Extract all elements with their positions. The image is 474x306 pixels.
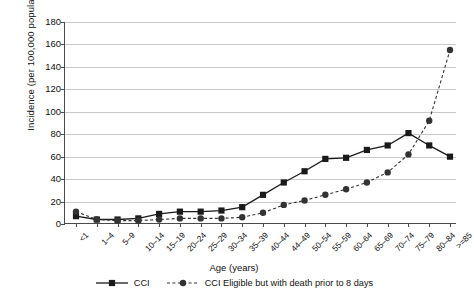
data-point-marker xyxy=(198,209,204,215)
y-tick-label: 60 xyxy=(21,152,61,162)
data-point-marker xyxy=(281,179,287,185)
x-tick-label: 1–4 xyxy=(99,230,116,247)
x-axis-label: Age (years) xyxy=(0,262,468,273)
data-point-marker xyxy=(177,209,183,215)
data-point-marker xyxy=(426,118,432,124)
legend-label: CCI Eligible but with death prior to 8 d… xyxy=(205,278,374,288)
y-tick-mark xyxy=(61,224,65,225)
data-point-marker xyxy=(260,192,266,198)
x-tick-label: 40–44 xyxy=(268,230,291,253)
x-tick-label: 25–29 xyxy=(205,230,228,253)
data-point-marker xyxy=(426,142,432,148)
data-point-marker xyxy=(322,192,328,198)
x-tick-label: <1 xyxy=(77,230,91,244)
data-point-marker xyxy=(239,204,245,210)
x-tick-label: 10–14 xyxy=(143,230,166,253)
data-point-marker xyxy=(364,147,370,153)
data-point-marker xyxy=(447,154,453,160)
legend-label: CCI xyxy=(134,278,150,288)
x-tick-label: 75–79 xyxy=(413,230,436,253)
data-point-marker xyxy=(405,151,411,157)
y-tick-label: 120 xyxy=(21,84,61,94)
data-point-marker xyxy=(343,155,349,161)
data-point-marker xyxy=(281,202,287,208)
data-point-marker xyxy=(322,156,328,162)
x-tick-label: 65–69 xyxy=(372,230,395,253)
data-point-marker xyxy=(73,208,79,214)
y-tick-label: 100 xyxy=(21,107,61,117)
x-tick-label: 50–54 xyxy=(309,230,332,253)
data-point-marker xyxy=(364,179,370,185)
data-point-marker xyxy=(385,142,391,148)
y-tick-label: 160 xyxy=(21,39,61,49)
data-point-marker xyxy=(94,216,100,222)
x-tick-label: 44–49 xyxy=(289,230,312,253)
data-point-marker xyxy=(301,197,307,203)
x-tick-label: 55–59 xyxy=(330,230,353,253)
x-tick-label: 60–64 xyxy=(351,230,374,253)
legend-item-1: CCI xyxy=(95,278,150,288)
x-tick-label: >=85 xyxy=(454,230,474,250)
series-line-1 xyxy=(76,133,450,219)
y-tick-label: 140 xyxy=(21,62,61,72)
y-tick-label: 20 xyxy=(21,197,61,207)
data-point-marker xyxy=(218,207,224,213)
data-point-marker xyxy=(447,47,453,53)
x-tick-label: 30–34 xyxy=(226,230,249,253)
data-point-marker xyxy=(384,169,390,175)
x-tick-label: 70–74 xyxy=(392,230,415,253)
data-point-marker xyxy=(135,217,141,223)
x-tick-label: 15–19 xyxy=(164,230,187,253)
data-point-marker xyxy=(343,186,349,192)
y-tick-label: 40 xyxy=(21,174,61,184)
data-point-marker xyxy=(239,214,245,220)
chart-legend: CCICCI Eligible but with death prior to … xyxy=(0,278,468,288)
y-tick-label: 180 xyxy=(21,17,61,27)
legend-square-icon xyxy=(95,278,129,288)
data-point-marker xyxy=(156,211,162,217)
data-point-marker xyxy=(156,216,162,222)
x-tick-label: 35–39 xyxy=(247,230,270,253)
x-tick-label: 20–24 xyxy=(185,230,208,253)
y-tick-label: 80 xyxy=(21,129,61,139)
data-point-marker xyxy=(114,217,120,223)
data-point-marker xyxy=(301,168,307,174)
plot-area: 020406080100120140160180 <11–45–910–1415… xyxy=(64,22,456,224)
series-layer xyxy=(65,22,457,224)
legend-circle-icon xyxy=(166,278,200,288)
data-point-marker xyxy=(177,215,183,221)
data-point-marker xyxy=(260,210,266,216)
data-point-marker xyxy=(218,215,224,221)
y-tick-label: 0 xyxy=(21,219,61,229)
legend-item-2: CCI Eligible but with death prior to 8 d… xyxy=(166,278,374,288)
x-tick-label: 5–9 xyxy=(120,230,137,247)
data-point-marker xyxy=(197,215,203,221)
data-point-marker xyxy=(405,130,411,136)
